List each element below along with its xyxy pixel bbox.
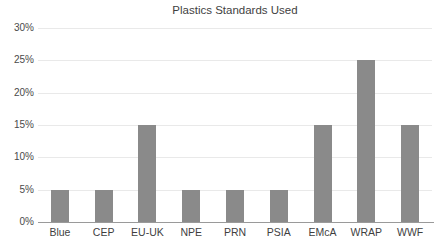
x-tick-label-EMcA: EMcA (301, 226, 345, 239)
x-tick-label-PSIA: PSIA (257, 226, 301, 239)
bar-WWF[interactable] (401, 125, 419, 222)
bar-slot (388, 28, 432, 222)
bar-slot (213, 28, 257, 222)
bar-slot (301, 28, 345, 222)
bar-EMcA[interactable] (314, 125, 332, 222)
x-tick-label-PRN: PRN (213, 226, 257, 239)
y-tick-label-20%: 20% (2, 88, 34, 98)
y-tick-label-5%: 5% (2, 185, 34, 195)
bar-slot (344, 28, 388, 222)
bar-EU-UK[interactable] (138, 125, 156, 222)
y-axis-tick-labels: 30%25%20%15%10%5%0% (0, 0, 34, 250)
y-tick-label-0%: 0% (2, 217, 34, 227)
bar-PRN[interactable] (226, 190, 244, 222)
bar-slot (257, 28, 301, 222)
y-tick-label-15%: 15% (2, 120, 34, 130)
x-tick-label-Blue: Blue (38, 226, 82, 239)
x-tick-label-NPE: NPE (169, 226, 213, 239)
x-tick-label-WWF: WWF (388, 226, 432, 239)
bar-slot (169, 28, 213, 222)
x-tick-label-EU-UK: EU-UK (126, 226, 170, 239)
bar-NPE[interactable] (182, 190, 200, 222)
x-tick-label-WRAP: WRAP (344, 226, 388, 239)
y-tick-label-10%: 10% (2, 152, 34, 162)
plot-area (38, 28, 432, 222)
bar-chart: Plastics Standards Used 30%25%20%15%10%5… (0, 0, 442, 250)
bar-slot (38, 28, 82, 222)
y-tick-label-30%: 30% (2, 23, 34, 33)
bar-PSIA[interactable] (270, 190, 288, 222)
x-tick-label-CEP: CEP (82, 226, 126, 239)
bar-slot (126, 28, 170, 222)
x-axis-tick-labels: BlueCEPEU-UKNPEPRNPSIAEMcAWRAPWWF (38, 226, 432, 246)
bar-CEP[interactable] (95, 190, 113, 222)
chart-title: Plastics Standards Used (38, 3, 432, 17)
bar-WRAP[interactable] (357, 60, 375, 222)
y-tick-label-25%: 25% (2, 55, 34, 65)
bar-Blue[interactable] (51, 190, 69, 222)
bar-slot (82, 28, 126, 222)
x-axis-line (38, 222, 434, 223)
